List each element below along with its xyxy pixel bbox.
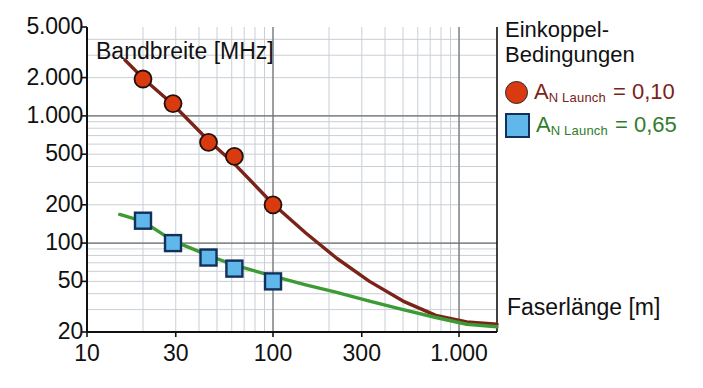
legend-entry-an-launch-010: AN Launch= 0,10 [505,81,703,104]
y-axis-tick-labels: 20501002005001.0002.0005.000 [0,0,83,388]
legend-value: = 0,65 [615,114,677,136]
x-axis-title: Faserlänge [m] [507,296,660,319]
data-point [134,71,151,88]
legend-title-line-1: Einkoppel- [505,18,703,43]
y-tick-label: 2.000 [26,66,83,89]
data-point [226,261,242,277]
y-tick-label: 5.000 [26,15,83,38]
legend-value: = 0,10 [613,81,675,103]
y-tick-label: 500 [45,142,83,165]
data-point [265,273,281,289]
y-tick-label: 100 [45,231,83,254]
data-point [165,95,182,112]
x-tick-label: 300 [343,342,381,365]
legend-symbol: A [536,114,551,136]
legend-title-line-2: Bedingungen [505,43,703,68]
data-point [200,134,217,151]
legend-subscript: N Launch [549,91,606,104]
y-tick-label: 50 [58,269,83,292]
x-tick-label: 10 [74,342,100,365]
y-tick-label: 1.000 [26,104,83,127]
data-point [135,213,151,229]
y-tick-label: 200 [45,193,83,216]
legend-entry-an-launch-065: AN Launch= 0,65 [505,113,703,138]
data-point [226,148,243,165]
square-marker-icon [505,113,530,138]
legend-entry-label: AN Launch= 0,10 [534,81,675,103]
chart-figure: 20501002005001.0002.0005.000 Bandbreite … [0,0,703,388]
data-point [201,250,217,266]
y-axis-title: Bandbreite [MHz] [96,40,274,63]
legend: Einkoppel- Bedingungen AN Launch= 0,10 A… [505,18,703,138]
legend-entry-label: AN Launch= 0,65 [536,114,677,136]
circle-marker-icon [505,81,528,104]
series-markers-1 [135,213,281,290]
data-point [265,196,282,213]
x-tick-label: 1.000 [430,342,488,365]
data-point [165,235,181,251]
legend-symbol: A [534,81,549,103]
x-tick-label: 100 [254,342,292,365]
legend-subscript: N Launch [551,124,608,137]
x-tick-label: 30 [163,342,189,365]
